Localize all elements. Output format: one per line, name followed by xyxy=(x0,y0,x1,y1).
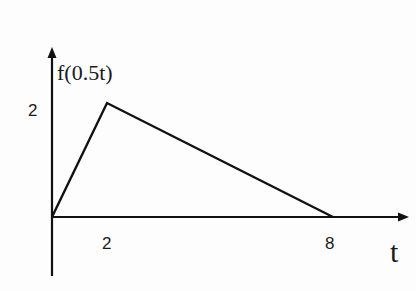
x-tick-label-2: 2 xyxy=(102,234,111,253)
y-axis-label: f(0.5t) xyxy=(57,60,113,85)
x-axis-label: t xyxy=(390,235,399,268)
y-tick-label: 2 xyxy=(28,101,37,120)
chart: f(0.5t) 2 2 8 t xyxy=(0,0,416,291)
function-line xyxy=(52,103,333,217)
x-tick-label-8: 8 xyxy=(325,234,334,253)
x-axis-arrow-icon xyxy=(398,213,409,222)
y-axis-arrow-icon xyxy=(48,47,57,58)
